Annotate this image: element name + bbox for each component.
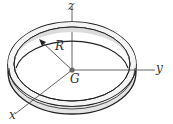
y-axis-label: y xyxy=(156,62,163,74)
z-axis-label: z xyxy=(68,0,74,12)
radius-label: R xyxy=(55,40,64,52)
x-axis-label: x xyxy=(9,109,16,121)
center-label: G xyxy=(70,73,80,85)
ring-drawing xyxy=(0,0,173,124)
ring-diagram: z y x R G xyxy=(0,0,173,124)
